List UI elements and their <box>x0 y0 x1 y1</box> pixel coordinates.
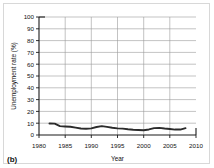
y-axis-title: Unemployment rate (%) <box>10 42 18 109</box>
y-tick-label: 90 <box>27 25 34 32</box>
x-tick-label: 1980 <box>32 142 46 149</box>
y-tick-label: 10 <box>27 120 34 127</box>
y-tick-label: 30 <box>27 96 34 103</box>
y-tick-label: 20 <box>27 108 34 115</box>
y-axis-tick-labels: 100 90 80 70 60 50 40 30 20 10 0 <box>24 13 35 138</box>
x-tick-label: 1985 <box>58 142 72 149</box>
panel-label: (b) <box>7 155 18 164</box>
x-axis-title: Year <box>111 155 125 162</box>
y-tick-label: 70 <box>27 49 34 56</box>
y-tick-label: 0 <box>31 131 35 138</box>
y-tick-label: 60 <box>27 61 34 68</box>
y-tick-label: 100 <box>24 13 35 20</box>
x-tick-label: 2000 <box>137 142 151 149</box>
x-tick-label: 1990 <box>84 142 98 149</box>
y-tick-label: 40 <box>27 84 34 91</box>
figure-panel-b: 100 90 80 70 60 50 40 30 20 10 0 1980 19… <box>0 0 214 168</box>
unemployment-rate-line-chart: 100 90 80 70 60 50 40 30 20 10 0 1980 19… <box>0 0 214 168</box>
x-tick-label: 1995 <box>111 142 125 149</box>
y-tick-label: 50 <box>27 72 34 79</box>
x-axis-tick-labels: 1980 1985 1990 1995 2000 2005 2010 <box>32 142 203 149</box>
x-tick-label: 2005 <box>163 142 177 149</box>
x-tick-label: 2010 <box>189 142 203 149</box>
y-tick-label: 80 <box>27 37 34 44</box>
